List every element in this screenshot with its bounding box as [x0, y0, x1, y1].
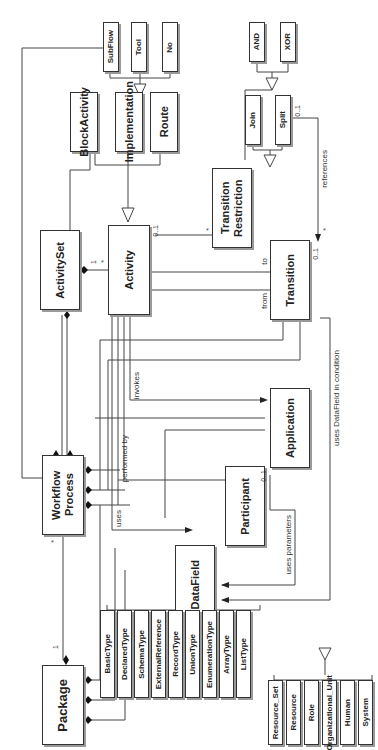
package-class: Package	[42, 665, 84, 745]
label-performed-by: performed by	[120, 435, 129, 482]
mult-package-one: 1	[52, 645, 59, 649]
label-from: from	[260, 293, 269, 309]
mult-split: 0..1	[294, 105, 301, 117]
label-invokes: invokes	[132, 372, 141, 399]
participant-type-resource: Resource	[286, 680, 301, 745]
data-type-basic: BasicType	[100, 610, 115, 698]
join-class: Join	[245, 95, 261, 145]
participant-type-role: Role	[304, 680, 319, 745]
subflow-class: SubFlow	[103, 22, 119, 72]
participant-type-org-unit: Organizational_Unit	[322, 680, 337, 745]
label-uses-datafield-condition: uses DataField in condition	[332, 350, 341, 446]
block-activity-class: BlockActivity	[70, 92, 98, 152]
mult-transition-top: *	[322, 228, 329, 231]
mult-transition-cond: 0..1	[312, 248, 319, 260]
transition-class: Transition	[270, 240, 310, 320]
label-to: to	[260, 258, 269, 265]
data-type-record: RecordType	[168, 610, 183, 698]
activity-class: Activity	[108, 225, 150, 315]
mult-tr: *	[205, 228, 212, 231]
application-class: Application	[270, 388, 310, 468]
split-class: Split	[275, 95, 291, 145]
data-type-array: ArrayType	[219, 610, 234, 698]
no-class: No	[162, 22, 178, 72]
mult-activityset-many: *	[100, 260, 107, 263]
mult-package-wp: *	[50, 540, 57, 543]
and-class: AND	[249, 22, 265, 62]
data-type-external: ExternalReference	[151, 610, 166, 698]
tool-class: Tool	[131, 22, 147, 72]
data-type-enumeration: EnumerationType	[202, 610, 217, 698]
activity-set-class: ActivitySet	[40, 230, 80, 310]
label-uses: uses	[114, 510, 123, 527]
implementation-class: Implementation	[115, 92, 143, 152]
participant-type-system: System	[358, 680, 373, 745]
route-class: Route	[150, 92, 178, 152]
mult-activityset-one: 1	[90, 260, 97, 264]
xor-class: XOR	[280, 22, 296, 62]
participant-type-human: Human	[340, 680, 355, 745]
label-uses-parameters: uses parameters	[284, 515, 293, 575]
participant-type-resource-set: Resource_Set	[268, 680, 283, 745]
transition-restriction-class: Transition Restriction	[212, 168, 252, 248]
data-type-schema: SchemaType	[134, 610, 149, 698]
mult-application: 0..1	[260, 470, 267, 482]
label-references: references	[320, 150, 329, 188]
participant-class: Participant	[225, 466, 265, 546]
data-type-declared: DeclaredType	[117, 610, 132, 698]
data-type-list: ListType	[236, 610, 251, 698]
data-type-union: UnionType	[185, 610, 200, 698]
mult-activity-tr: 0..1	[152, 225, 159, 237]
workflow-process-class: Workflow Process	[42, 455, 84, 535]
